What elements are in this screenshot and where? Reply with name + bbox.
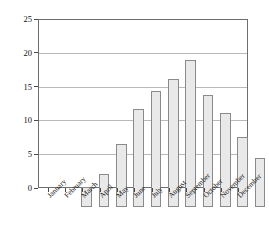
x-tick-label: July [150,185,164,199]
x-axis-labels: JanuaryFebruaryMarchAprilMayJuneJulyAugu… [0,188,269,236]
y-tick-label: 20 [14,49,32,58]
y-tick-label: 5 [14,150,32,159]
y-tick-label: 25 [14,15,32,24]
y-tick-label: 10 [14,116,32,125]
plot-area [38,19,248,188]
y-axis: 0510152025 [0,19,38,188]
y-tick-label: 15 [14,83,32,92]
evaporation-bar-chart: Evaporation (cm) 0510152025 JanuaryFebru… [0,0,269,236]
